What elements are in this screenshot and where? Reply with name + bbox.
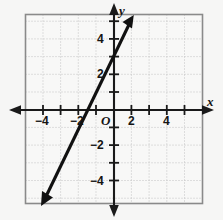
y-axis-label: y xyxy=(119,4,125,17)
y-tick-label-2: 2 xyxy=(97,68,104,80)
origin-label: O xyxy=(101,114,110,127)
coordinate-plane-figure: −4 −2 2 4 4 2 −2 −4 O x y xyxy=(0,0,223,220)
x-tick-label-4: 4 xyxy=(163,115,170,127)
y-tick-label-4: 4 xyxy=(97,33,104,45)
x-tick-label--2: −2 xyxy=(70,115,84,127)
x-tick-label--4: −4 xyxy=(35,115,49,127)
y-tick-label--2: −2 xyxy=(90,139,104,151)
graph-canvas xyxy=(0,0,223,220)
x-tick-label-2: 2 xyxy=(128,115,135,127)
y-tick-label--4: −4 xyxy=(90,175,104,187)
x-axis-label: x xyxy=(207,95,214,108)
